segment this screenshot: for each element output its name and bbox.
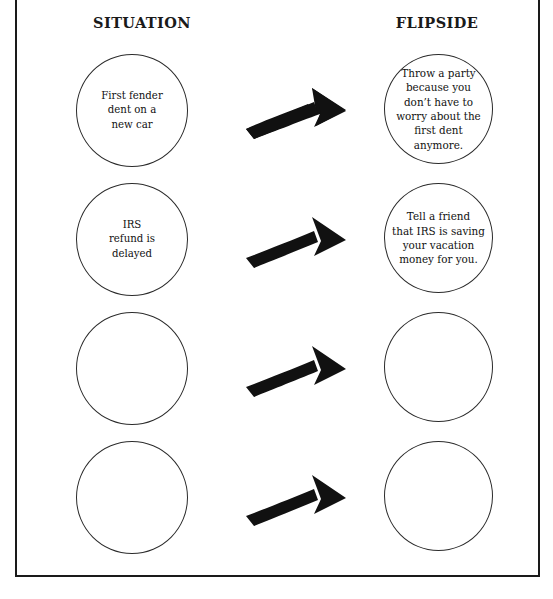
- worksheet-frame: SITUATION FLIPSIDE First fender dent on …: [15, 0, 540, 577]
- situation-bubble-text: First fender dent on a new car: [96, 89, 168, 132]
- flipside-bubble-text: Tell a friend that IRS is saving your va…: [390, 209, 487, 267]
- situation-bubble[interactable]: [76, 441, 188, 554]
- situation-bubble-text: IRS refund is delayed: [104, 218, 160, 261]
- flipside-bubble-text: Throw a party because you don’t have to …: [394, 66, 483, 152]
- worksheet-row: IRS refund is delayed Tell a friend that…: [17, 183, 538, 303]
- situation-bubble[interactable]: [76, 312, 188, 425]
- flipside-bubble[interactable]: Tell a friend that IRS is saving your va…: [384, 183, 493, 293]
- worksheet-row: [17, 441, 538, 561]
- curved-right-arrow-icon: [242, 469, 354, 529]
- worksheet-rows: First fender dent on a new car Throw a p…: [17, 0, 538, 575]
- flipside-bubble[interactable]: [384, 441, 493, 551]
- worksheet-row: [17, 312, 538, 432]
- curved-right-arrow-icon: [242, 82, 354, 142]
- situation-bubble[interactable]: IRS refund is delayed: [76, 183, 188, 296]
- curved-right-arrow-icon: [242, 340, 354, 400]
- worksheet-row: First fender dent on a new car Throw a p…: [17, 54, 538, 174]
- situation-bubble[interactable]: First fender dent on a new car: [76, 54, 188, 167]
- flipside-bubble[interactable]: Throw a party because you don’t have to …: [384, 54, 493, 164]
- curved-right-arrow-icon: [242, 211, 354, 271]
- flipside-bubble[interactable]: [384, 312, 493, 422]
